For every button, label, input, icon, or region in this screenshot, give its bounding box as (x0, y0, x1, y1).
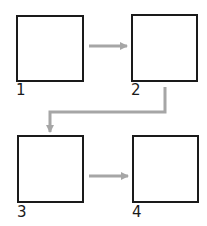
step-label-2: 2 (131, 83, 141, 98)
arrow-2-to-3 (50, 87, 165, 132)
step-box-4 (132, 135, 199, 203)
step-box-2 (131, 14, 198, 82)
step-label-3: 3 (17, 205, 27, 220)
step-box-1 (16, 15, 84, 82)
step-label-4: 4 (132, 205, 142, 220)
step-label-1: 1 (16, 83, 26, 98)
step-box-3 (17, 135, 84, 203)
